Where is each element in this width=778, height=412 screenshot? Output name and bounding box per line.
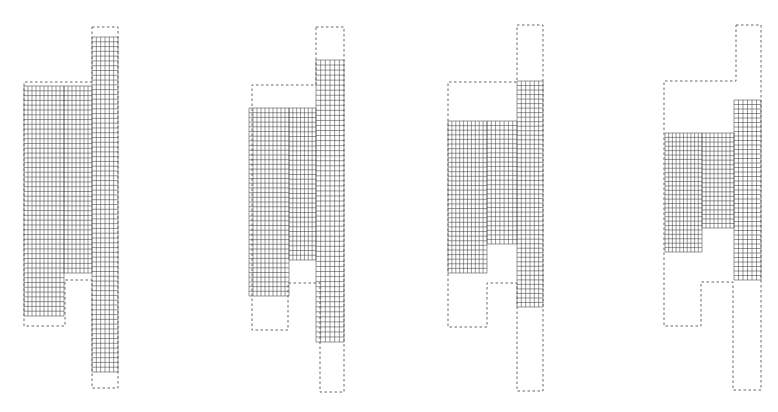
mesh-region <box>289 108 316 260</box>
mesh-panel-3 <box>448 25 543 391</box>
mesh-region <box>517 81 543 307</box>
mesh-region <box>734 100 761 280</box>
mesh-region <box>24 86 64 316</box>
mesh-panel-4 <box>664 25 761 390</box>
mesh-panel-1 <box>24 27 118 388</box>
mesh-region <box>448 121 487 273</box>
mesh-deformation-figure <box>0 0 778 412</box>
figure-canvas <box>0 0 778 412</box>
mesh-region <box>665 133 702 252</box>
mesh-region <box>64 86 92 273</box>
mesh-region <box>487 121 517 244</box>
undeformed-outline <box>664 25 761 390</box>
mesh-region <box>92 37 118 372</box>
mesh-panel-2 <box>249 27 344 392</box>
mesh-region <box>702 133 734 228</box>
mesh-region <box>316 60 344 342</box>
mesh-region <box>249 108 289 296</box>
